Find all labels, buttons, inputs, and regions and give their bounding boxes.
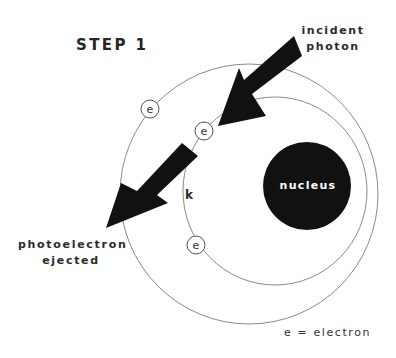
nucleus-label: nucleus bbox=[266, 180, 350, 191]
incident-label-line-2: photon bbox=[296, 39, 370, 55]
electron: e bbox=[187, 236, 205, 254]
electron: e bbox=[141, 100, 159, 118]
legend-electron: e = electron bbox=[284, 327, 371, 338]
incident-photon-arrow bbox=[218, 36, 302, 126]
k-shell-label: k bbox=[185, 189, 193, 201]
electron-symbol: e bbox=[147, 103, 154, 116]
electron-symbol: e bbox=[201, 125, 208, 138]
electron-symbol: e bbox=[193, 239, 200, 252]
electron: e bbox=[195, 122, 213, 140]
ejected-label-line-1: photoelectron bbox=[18, 237, 124, 253]
step-title: STEP 1 bbox=[76, 38, 148, 53]
ejected-label-line-2: ejected bbox=[18, 253, 124, 269]
photoelectron-ejected-label: photoelectron ejected bbox=[18, 237, 124, 269]
incident-photon-label: incident photon bbox=[296, 23, 370, 55]
incident-label-line-1: incident bbox=[296, 23, 370, 39]
